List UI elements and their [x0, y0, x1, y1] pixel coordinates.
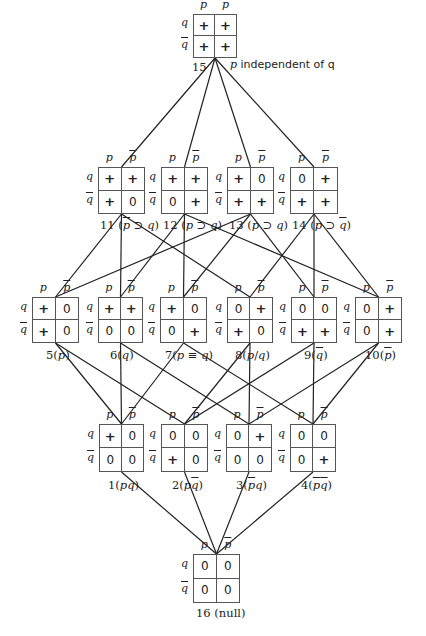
row-header-q: q [181, 16, 188, 29]
cell-true: + [313, 448, 335, 471]
col-header-p: p [169, 408, 176, 421]
truth-grid: 00++ [291, 297, 337, 343]
col-header-p: p [200, 0, 207, 11]
cell-false: 0 [122, 448, 144, 471]
row-header-not-q: q [214, 451, 221, 464]
col-header-not-p: p [322, 281, 329, 294]
cell-true: + [194, 15, 215, 36]
col-header-p: p [169, 151, 176, 164]
node-label: 16 (null) [196, 606, 246, 620]
col-header-p: p [106, 151, 113, 164]
truth-grid: 000+ [290, 424, 336, 472]
row-header-q: q [343, 300, 350, 313]
cell-true: + [250, 298, 272, 320]
truth-grid: 0000 [193, 554, 240, 603]
node-label: 7(p ≡ q) [165, 348, 213, 362]
cell-true: + [99, 298, 121, 320]
row-header-q: q [278, 170, 285, 183]
cell-false: 0 [56, 298, 79, 320]
row-header-not-q: q [148, 323, 155, 336]
cell-false: 0 [291, 425, 313, 448]
row-header-not-q: q [87, 451, 94, 464]
cell-true: + [194, 36, 215, 57]
col-header-p: p [201, 538, 208, 551]
row-header-q: q [86, 300, 93, 313]
truth-grid: +++0 [98, 167, 145, 214]
row-header-not-q: q [278, 451, 285, 464]
row-header-not-q: q [279, 323, 286, 336]
col-header-not-p: p [322, 151, 329, 164]
note-text: independent of q [241, 58, 335, 71]
col-header-not-p: p [224, 538, 231, 551]
cell-false: 0 [56, 320, 79, 342]
cell-false: 0 [121, 320, 143, 342]
cell-true: + [292, 320, 314, 342]
cell-false: 0 [291, 448, 313, 471]
row-header-q: q [87, 427, 94, 440]
col-header-not-p: p [191, 281, 198, 294]
row-header-not-q: q [86, 323, 93, 336]
col-header-not-p: p [258, 151, 265, 164]
node-label: 11 (p ⊃ q) [100, 218, 159, 232]
cell-false: 0 [227, 425, 249, 448]
cell-true: + [228, 168, 251, 191]
col-header-not-p: p [192, 408, 199, 421]
truth-grid: 0+0+ [355, 297, 402, 343]
col-header-p: p [298, 408, 305, 421]
row-header-not-q: q [343, 323, 350, 336]
col-header-p: p [235, 151, 242, 164]
col-header-not-p: p [129, 151, 136, 164]
row-header-q: q [214, 427, 221, 440]
row-header-q: q [215, 170, 222, 183]
row-header-not-q: q [20, 323, 27, 336]
col-header-not-p: p [222, 0, 229, 11]
cell-false: 0 [217, 555, 240, 579]
col-header-p: p [298, 151, 305, 164]
cell-false: 0 [162, 191, 185, 214]
col-header-not-p: p [192, 151, 199, 164]
cell-false: 0 [194, 555, 217, 579]
cell-true: + [33, 320, 56, 342]
row-header-not-q: q [215, 193, 222, 206]
truth-grid: 0+++ [290, 167, 338, 214]
cell-true: + [314, 320, 336, 342]
node-label: 14 (p ⊃ q) [292, 218, 351, 232]
cell-true: + [184, 320, 207, 342]
edge-15-12 [185, 58, 216, 167]
col-header-not-p: p [386, 281, 393, 294]
cell-true: + [162, 448, 185, 471]
row-header-q: q [148, 300, 155, 313]
truth-grid: +0+0 [32, 297, 79, 343]
col-header-p: p [105, 281, 112, 294]
cell-true: + [122, 168, 145, 191]
cell-false: 0 [251, 168, 274, 191]
cell-false: 0 [228, 298, 250, 320]
row-header-q: q [20, 300, 27, 313]
cell-false: 0 [185, 448, 208, 471]
cell-false: 0 [185, 425, 208, 448]
cell-false: 0 [314, 298, 336, 320]
cell-true: + [228, 191, 251, 214]
cell-false: 0 [122, 425, 144, 448]
truth-grid: +00+ [160, 297, 207, 343]
cell-true: + [215, 36, 236, 57]
cell-false: 0 [250, 320, 272, 342]
truth-grid: +0++ [227, 167, 274, 214]
node-label: 12 (p ⊃ q) [163, 218, 222, 232]
node-label: 13 (p ⊃ q) [229, 218, 288, 232]
cell-true: + [215, 15, 236, 36]
cell-true: + [228, 320, 250, 342]
cell-true: + [379, 320, 402, 342]
cell-false: 0 [217, 579, 240, 603]
cell-false: 0 [313, 425, 335, 448]
row-header-not-q: q [278, 193, 285, 206]
truth-grid: 0++0 [227, 297, 273, 343]
truth-grid: 0+00 [226, 424, 272, 472]
node-label: 4(pq) [301, 478, 332, 492]
cell-false: 0 [162, 425, 185, 448]
cell-false: 0 [194, 579, 217, 603]
cell-true: + [314, 191, 337, 214]
cell-true: + [251, 191, 274, 214]
row-header-q: q [86, 170, 93, 183]
col-header-not-p: p [321, 408, 328, 421]
